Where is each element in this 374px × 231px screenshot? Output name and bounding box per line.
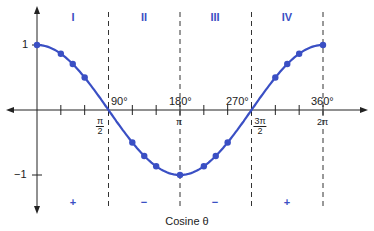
data-point: [296, 51, 302, 57]
data-point: [153, 163, 159, 169]
data-point: [272, 74, 278, 80]
rad-label-2pi: 2π: [317, 117, 328, 127]
data-point: [141, 153, 147, 159]
sign-q1: +: [70, 196, 76, 208]
deg-label-180: 180°: [169, 95, 192, 107]
rad-label-pi-2: π2: [96, 117, 104, 136]
data-point: [320, 42, 326, 48]
data-point: [70, 61, 76, 67]
sign-q4: +: [284, 196, 290, 208]
quadrant-label-4: IV: [282, 11, 292, 23]
quadrant-label-2: II: [141, 11, 147, 23]
deg-label-90: 90°: [111, 95, 128, 107]
data-point: [213, 153, 219, 159]
data-point: [177, 172, 183, 178]
rad-label-3pi-2: 3π2: [253, 117, 266, 136]
sign-q3: −: [212, 196, 218, 208]
deg-label-360: 360°: [311, 95, 334, 107]
data-point: [81, 74, 87, 80]
data-point: [129, 139, 135, 145]
data-point: [224, 139, 230, 145]
y-label-neg1: −1: [14, 168, 27, 180]
cosine-plot: [0, 0, 374, 231]
data-point: [201, 163, 207, 169]
data-point: [58, 51, 64, 57]
cosine-diagram: 1 −1 90° 180° 270° 360° π2 π 3π2 2π I II…: [0, 0, 374, 231]
sign-q2: −: [141, 196, 147, 208]
y-label-1: 1: [22, 38, 28, 50]
chart-caption: Cosine θ: [0, 215, 374, 227]
rad-label-pi: π: [176, 117, 182, 127]
data-point: [284, 61, 290, 67]
deg-label-270: 270°: [226, 95, 249, 107]
data-point: [34, 42, 40, 48]
quadrant-label-3: III: [210, 11, 219, 23]
quadrant-label-1: I: [71, 11, 74, 23]
